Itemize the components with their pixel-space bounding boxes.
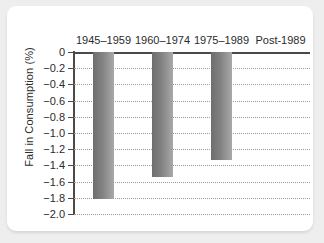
y-tick-label: −0.6	[43, 95, 65, 107]
y-tick-mark	[68, 84, 74, 85]
y-tick-mark	[68, 149, 74, 150]
figure-root: Fall in Consumption (%) 0−0.2−0.4−0.6−0.…	[0, 0, 324, 243]
bar	[93, 52, 114, 199]
y-tick-mark	[68, 182, 74, 183]
bar	[152, 52, 173, 177]
plot-area: 0−0.2−0.4−0.6−0.8−1.0−1.2−1.4−1.6−1.8−2.…	[74, 52, 310, 214]
gridline	[74, 214, 310, 215]
category-label: 1975–1989	[194, 34, 249, 46]
y-tick-mark	[68, 52, 74, 53]
bar	[211, 52, 232, 160]
y-tick-label: −1.0	[43, 127, 65, 139]
y-tick-label: 0	[59, 46, 65, 58]
y-tick-mark	[68, 68, 74, 69]
y-tick-label: −0.8	[43, 111, 65, 123]
y-tick-mark	[68, 101, 74, 102]
y-tick-label: −0.4	[43, 78, 65, 90]
category-label: 1945–1959	[76, 34, 131, 46]
y-axis-title: Fall in Consumption (%)	[23, 42, 35, 172]
y-tick-label: −2.0	[43, 208, 65, 220]
category-label: Post-1989	[255, 34, 305, 46]
y-tick-mark	[68, 165, 74, 166]
category-label: 1960–1974	[135, 34, 190, 46]
y-tick-label: −1.2	[43, 143, 65, 155]
y-tick-label: −1.4	[43, 159, 65, 171]
y-tick-mark	[68, 133, 74, 134]
y-tick-mark	[68, 214, 74, 215]
y-tick-mark	[68, 117, 74, 118]
y-tick-mark	[68, 198, 74, 199]
y-tick-label: −1.8	[43, 192, 65, 204]
y-tick-label: −0.2	[43, 62, 65, 74]
chart-card: Fall in Consumption (%) 0−0.2−0.4−0.6−0.…	[7, 6, 313, 231]
y-tick-label: −1.6	[43, 176, 65, 188]
